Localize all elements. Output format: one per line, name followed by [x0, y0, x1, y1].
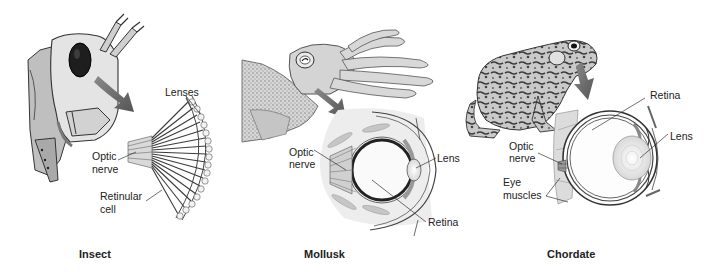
label-lenses: Lenses [165, 86, 199, 98]
chordate-eye-section [538, 98, 668, 205]
label-optic-nerve-line2: nerve [509, 152, 535, 164]
label-eye-muscles-line2: muscles [503, 189, 542, 201]
diagram-illustrations [0, 0, 710, 272]
label-optic-nerve-line1: Optic [289, 146, 314, 158]
label-retinular-line2: cell [100, 203, 116, 215]
label-optic-nerve-line1: Optic [509, 140, 534, 152]
label-retina: Retina [650, 89, 680, 101]
eye-evolution-diagram: Lenses Optic nerve Retinular cell Insect… [0, 0, 710, 272]
label-lens: Lens [437, 152, 460, 164]
caption-insect: Insect [79, 248, 111, 260]
label-optic-nerve-line1: Optic [92, 150, 117, 162]
label-lens: Lens [670, 130, 693, 142]
mollusk-eye-section [314, 108, 436, 236]
caption-chordate: Chordate [547, 248, 595, 260]
label-optic-nerve-line2: nerve [289, 158, 315, 170]
label-optic-nerve-line2: nerve [92, 163, 118, 175]
label-eye-muscles-line1: Eye [503, 176, 521, 188]
label-retinular-line1: Retinular [100, 190, 142, 202]
label-retina: Retina [428, 216, 458, 228]
caption-mollusk: Mollusk [304, 248, 345, 260]
